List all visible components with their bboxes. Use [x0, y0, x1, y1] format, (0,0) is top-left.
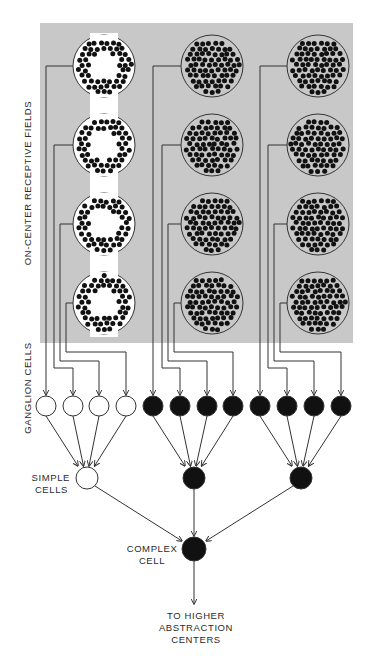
- receptor-dot: [207, 310, 212, 315]
- receptor-dot: [294, 300, 299, 305]
- receptor-dot: [190, 126, 195, 131]
- receptor-dot: [215, 137, 220, 142]
- receptor-dot: [200, 130, 205, 135]
- receptor-dot: [126, 226, 131, 231]
- receptor-dot: [334, 227, 339, 232]
- receptor-dot: [200, 242, 205, 247]
- receptor-dot: [313, 163, 318, 168]
- receptor-dot: [312, 243, 317, 248]
- receptor-dot: [185, 304, 190, 309]
- receptor-dot: [229, 79, 234, 84]
- receptor-dot: [126, 67, 131, 72]
- receptor-dot: [203, 226, 208, 231]
- receptor-dot: [119, 126, 124, 131]
- ganglion-to-simple-wire: [260, 416, 292, 466]
- receptor-dot: [108, 168, 113, 173]
- receptor-dot: [197, 47, 202, 52]
- receptor-dot: [203, 79, 208, 84]
- receptor-dot: [188, 63, 193, 68]
- receptor-dot: [198, 316, 203, 321]
- receptor-dot: [333, 46, 338, 51]
- receptor-dot: [80, 310, 85, 315]
- receptor-dot: [212, 73, 217, 78]
- receptor-dot: [340, 226, 345, 231]
- ganglion-cell-active: [170, 396, 190, 416]
- receptor-dot: [297, 216, 302, 221]
- receptor-dot: [225, 120, 230, 125]
- receptor-dot: [306, 62, 311, 67]
- receptor-dot: [203, 215, 208, 220]
- receptor-dot: [219, 209, 224, 214]
- receptor-dot: [219, 321, 224, 326]
- receptor-dot: [79, 141, 84, 146]
- receptor-dot: [231, 52, 236, 57]
- receptor-dot: [315, 46, 320, 51]
- receptor-dot: [297, 78, 302, 83]
- receptor-dot: [213, 310, 218, 315]
- receptor-dot: [209, 168, 214, 173]
- receptor-dot: [120, 146, 125, 151]
- receptor-dot: [98, 322, 103, 327]
- receptor-dot: [219, 141, 224, 146]
- receptor-dot: [87, 51, 92, 56]
- receptor-dot: [203, 158, 208, 163]
- receptor-dot: [89, 283, 94, 288]
- receptor-dot: [108, 125, 113, 130]
- receptor-dot: [310, 237, 315, 242]
- receptor-dot: [191, 216, 196, 221]
- receptor-dot: [194, 311, 199, 316]
- receptor-dot: [117, 289, 122, 294]
- ganglion-to-simple-wire: [196, 416, 207, 466]
- receptor-dot: [321, 68, 326, 73]
- receptor-dot: [340, 215, 345, 220]
- receptor-dot: [216, 225, 221, 230]
- receptor-dot: [225, 62, 230, 67]
- receptor-dot: [210, 46, 215, 51]
- receptor-dot: [293, 141, 298, 146]
- receptor-dot: [312, 73, 317, 78]
- receptor-dot: [235, 147, 240, 152]
- receptor-dot: [120, 135, 125, 140]
- receptor-dot: [290, 68, 295, 73]
- ganglion-cell-active: [304, 396, 324, 416]
- receptor-dot: [115, 236, 120, 241]
- complex-cell-label-line2: CELL: [139, 555, 165, 566]
- receptor-dot: [304, 57, 309, 62]
- receptor-dot: [86, 221, 91, 226]
- receptor-dot: [82, 215, 87, 220]
- receptor-dot: [307, 84, 312, 89]
- receptor-dot: [219, 120, 224, 125]
- receptor-dot: [303, 67, 308, 72]
- receptor-dot: [89, 316, 94, 321]
- receptor-dot: [325, 310, 330, 315]
- simple-to-complex-wire: [206, 486, 293, 541]
- receptor-dot: [86, 243, 91, 248]
- receptor-dot: [319, 41, 324, 46]
- receptor-dot: [117, 153, 122, 158]
- receptor-dot: [204, 126, 209, 131]
- receptor-dot: [95, 204, 100, 209]
- receptor-dot: [300, 199, 305, 204]
- receptive-field: [181, 272, 243, 334]
- receptor-dot: [86, 85, 91, 90]
- receptor-dot: [291, 135, 296, 140]
- receptor-dot: [228, 284, 233, 289]
- receptor-dot: [215, 237, 220, 242]
- receptor-dot: [98, 199, 103, 204]
- receptor-dot: [234, 136, 239, 141]
- receptor-dot: [213, 84, 218, 89]
- receptor-dot: [206, 120, 211, 125]
- receptor-dot: [304, 216, 309, 221]
- receptor-dot: [337, 130, 342, 135]
- receptor-dot: [195, 231, 200, 236]
- receptor-dot: [96, 283, 101, 288]
- receptor-dot: [79, 300, 84, 305]
- receptor-dot: [306, 141, 311, 146]
- receptor-dot: [203, 204, 208, 209]
- receptor-dot: [321, 158, 326, 163]
- receptor-dot: [184, 147, 189, 152]
- receptor-dot: [194, 152, 199, 157]
- receptor-dot: [185, 225, 190, 230]
- receptor-dot: [338, 231, 343, 236]
- receptor-dot: [294, 152, 299, 157]
